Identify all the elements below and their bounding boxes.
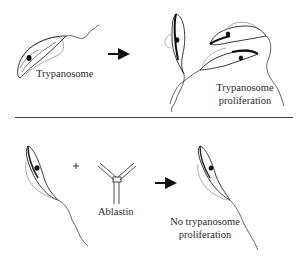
proliferation-label-line1: Trypanosome	[205, 81, 285, 94]
trypanosome-label: Trypanosome	[36, 67, 93, 80]
proliferation-label-line2: proliferation	[205, 94, 285, 107]
plus-icon	[73, 163, 79, 169]
no-proliferation-label: No trypanosome proliferation	[160, 215, 250, 241]
proliferation-label: Trypanosome proliferation	[205, 81, 285, 107]
antibody-icon	[98, 163, 136, 204]
no-proliferation-label-line1: No trypanosome	[160, 215, 250, 228]
trypanosome-icon	[26, 146, 88, 246]
no-proliferation-label-line2: proliferation	[160, 228, 250, 241]
diagram-canvas: Trypanosome Trypanosome proliferation Ab…	[0, 0, 303, 264]
panel-divider	[15, 117, 293, 118]
diagram-artwork	[0, 0, 303, 264]
ablastin-label: Ablastin	[98, 205, 134, 218]
